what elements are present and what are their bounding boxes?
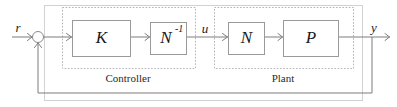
- signal-label-u: u: [202, 21, 209, 36]
- block-N-inverse-label: N: [159, 28, 173, 47]
- block-K-label: K: [95, 28, 109, 47]
- group-label-plant: Plant: [272, 72, 295, 84]
- block-N-label: N: [240, 28, 254, 47]
- signal-label-r: r: [15, 20, 21, 35]
- block-P-label: P: [305, 28, 316, 47]
- block-N-inverse-superscript: -1: [175, 23, 183, 34]
- diagram-svg: K N -1 N P r u y Controller Plant: [0, 0, 397, 107]
- group-label-controller: Controller: [105, 72, 151, 84]
- block-diagram-canvas: K N -1 N P r u y Controller Plant: [0, 0, 397, 107]
- signal-label-y: y: [369, 20, 377, 35]
- summing-junction: [33, 32, 44, 43]
